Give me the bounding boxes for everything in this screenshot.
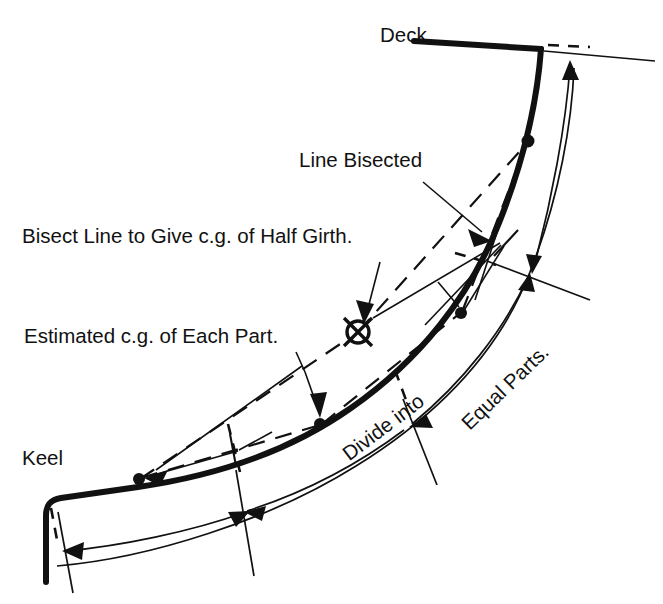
keel-extension-dash: [51, 508, 58, 545]
leader-line-bisected: [423, 182, 482, 232]
dimension-arc-keel-span: [66, 512, 246, 551]
label-deck: Deck: [380, 23, 427, 47]
dimension-arc-deck-span: [533, 66, 570, 270]
part-cg-dot-lower: [314, 418, 326, 430]
dimension-arrow-deck-upper: [562, 60, 579, 80]
leader-est-cg-to-bilge-dot: [438, 282, 459, 307]
leader-est-cg-to-keel: [156, 366, 302, 470]
deck-line: [414, 41, 541, 49]
label-keel: Keel: [22, 446, 63, 470]
label-bisect-line: Bisect Line to Give c.g. of Half Girth.: [22, 224, 352, 248]
dimension-arc-turn-span: [412, 277, 528, 424]
hull-section-line: [46, 49, 541, 582]
technical-diagram: Deck Line Bisected Bisect Line to Give c…: [0, 0, 663, 604]
label-estimated-cg: Estimated c.g. of Each Part.: [24, 324, 278, 348]
deck-extension-dash: [548, 45, 590, 47]
half-girth-cg-marker: [344, 318, 372, 346]
leader-est-cg-branch: [150, 451, 238, 476]
leader-arrow-est-cg-dot: [310, 392, 327, 418]
outer-reference-arc: [57, 68, 574, 566]
dimension-arrow-deck-lower: [526, 254, 542, 274]
leader-est-cg-branch-2: [239, 432, 272, 450]
part-cg-dot-deck: [522, 135, 535, 148]
divider-tick-5: [544, 51, 655, 61]
bisected-chord-lower: [140, 332, 358, 479]
dimension-arrow-keel-left: [62, 542, 84, 560]
divider-tick-4: [487, 261, 590, 300]
diagram-canvas: [0, 0, 663, 604]
label-line-bisected: Line Bisected: [299, 148, 422, 172]
part-cg-dot-keel: [133, 473, 145, 485]
